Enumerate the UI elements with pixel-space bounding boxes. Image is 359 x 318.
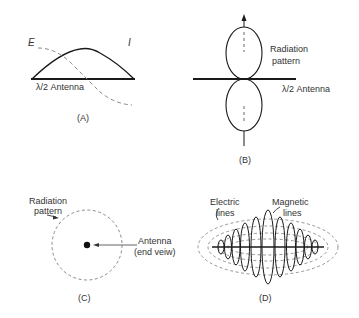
lobe-bottom bbox=[226, 79, 262, 131]
arrow-up-icon bbox=[242, 14, 247, 21]
antenna-label-a: λ/2 Antenna bbox=[36, 82, 84, 92]
caption-b: (B) bbox=[239, 155, 251, 165]
arrow-right-icon bbox=[53, 216, 59, 220]
label-e: E bbox=[28, 38, 35, 48]
antenna-label-b: λ/2 Antenna bbox=[282, 84, 330, 94]
caption-c: (C) bbox=[78, 293, 91, 303]
magnetic-label-1: Magnetic bbox=[272, 197, 309, 207]
panel-d-drawing bbox=[198, 207, 338, 284]
caption-a: (A) bbox=[77, 113, 89, 123]
label-i: I bbox=[128, 38, 131, 48]
caption-d: (D) bbox=[259, 293, 272, 303]
voltage-curve bbox=[38, 48, 132, 105]
antenna-label-c-1: Antenna bbox=[138, 236, 172, 246]
radiation-label-c-2: pattern bbox=[34, 206, 62, 216]
radiation-label-c-1: Radiation bbox=[29, 196, 67, 206]
current-curve bbox=[32, 49, 134, 80]
panel-c-drawing bbox=[47, 210, 137, 280]
electric-label-1: Electric bbox=[210, 197, 240, 207]
panel-b-drawing bbox=[193, 14, 296, 146]
arrow-left-icon bbox=[93, 243, 99, 247]
antenna-label-c-2: (end veiw) bbox=[134, 247, 176, 257]
radiation-label-b-2: pattern bbox=[272, 56, 300, 66]
radiation-label-b-1: Radiation bbox=[270, 44, 308, 54]
antenna-dot bbox=[84, 242, 90, 248]
electric-label-2: lines bbox=[216, 208, 235, 218]
magnetic-label-2: lines bbox=[283, 208, 302, 218]
panel-a-drawing bbox=[31, 48, 135, 105]
